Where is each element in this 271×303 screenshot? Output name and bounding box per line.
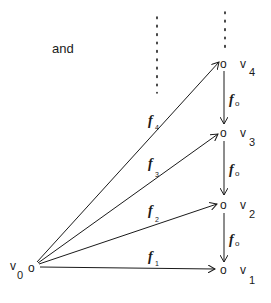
node-v2-marker: o bbox=[220, 198, 227, 212]
node-v4-label: v 4 bbox=[240, 57, 255, 78]
svg-text:4: 4 bbox=[249, 66, 255, 78]
node-v1-label: v 1 bbox=[240, 263, 255, 286]
svg-text:4: 4 bbox=[155, 124, 159, 131]
node-v3-label: v 3 bbox=[240, 126, 255, 148]
svg-text:v: v bbox=[240, 198, 246, 212]
edge-f3 bbox=[38, 134, 218, 263]
edge-f1 bbox=[40, 267, 215, 269]
edge-label-f0-v4-v3: f o bbox=[229, 92, 240, 108]
node-v2-label: v 2 bbox=[240, 198, 255, 220]
edge-label-f1: f 1 bbox=[148, 249, 159, 267]
svg-text:f: f bbox=[148, 156, 154, 171]
edge-label-f3: f 3 bbox=[148, 156, 159, 178]
node-v0-marker: o bbox=[28, 261, 35, 275]
svg-text:v: v bbox=[240, 126, 246, 140]
svg-text:3: 3 bbox=[155, 171, 159, 178]
svg-text:o: o bbox=[235, 169, 240, 178]
svg-text:1: 1 bbox=[249, 274, 255, 286]
svg-text:f: f bbox=[148, 113, 154, 128]
edge-label-f0-v2-v1: f o bbox=[229, 232, 240, 248]
node-v1-marker: o bbox=[220, 263, 227, 277]
svg-text:o: o bbox=[235, 99, 240, 108]
svg-text:2: 2 bbox=[155, 216, 159, 223]
svg-text:f: f bbox=[148, 249, 154, 264]
edge-f4 bbox=[37, 62, 219, 262]
node-v0-label: v 0 bbox=[10, 259, 23, 281]
svg-text:1: 1 bbox=[155, 260, 159, 267]
edge-f2 bbox=[39, 204, 217, 264]
svg-text:0: 0 bbox=[17, 269, 23, 281]
svg-text:v: v bbox=[240, 57, 246, 71]
edge-label-f2: f 2 bbox=[148, 203, 159, 223]
node-v3-marker: o bbox=[220, 126, 227, 140]
edge-label-f4: f 4 bbox=[148, 113, 159, 131]
svg-text:3: 3 bbox=[249, 136, 255, 148]
node-v4-marker: o bbox=[220, 57, 227, 71]
svg-text:v: v bbox=[240, 263, 246, 277]
intro-word: and bbox=[52, 41, 74, 56]
svg-text:2: 2 bbox=[249, 208, 255, 220]
diagram-canvas: and o o o o o v 4 v 3 v 2 bbox=[0, 0, 271, 303]
svg-text:o: o bbox=[235, 239, 240, 248]
svg-text:v: v bbox=[10, 259, 16, 273]
edge-label-f0-v3-v2: f o bbox=[229, 162, 240, 178]
svg-text:f: f bbox=[148, 203, 154, 218]
